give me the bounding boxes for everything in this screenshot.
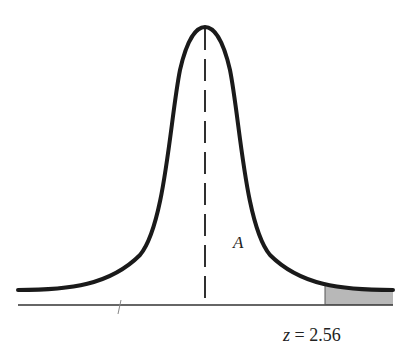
z-equals: = — [290, 325, 309, 345]
z-value-label: z = 2.56 — [283, 325, 341, 346]
z-value: 2.56 — [309, 325, 341, 345]
area-label: A — [233, 233, 243, 253]
normal-curve-diagram — [0, 0, 413, 356]
stray-tick-mark — [118, 300, 121, 314]
z-variable: z — [283, 325, 290, 345]
